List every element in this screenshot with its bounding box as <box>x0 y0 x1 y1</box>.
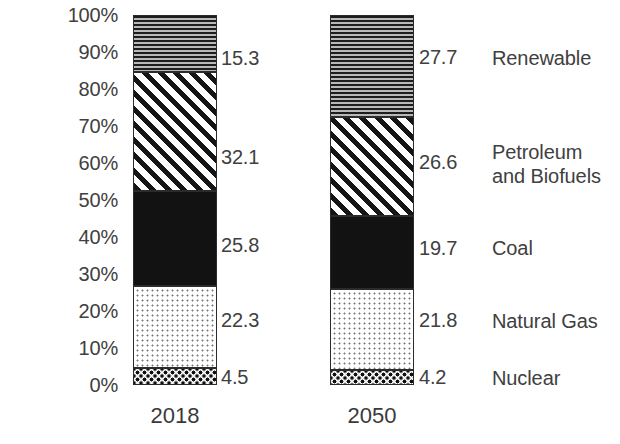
value-label-nuclear-2018: 4.5 <box>221 367 248 387</box>
value-label-coal-2050: 19.7 <box>419 238 457 258</box>
bar-segment-nuclear-2050[interactable] <box>330 370 414 385</box>
bar-segment-nuclear-2018[interactable] <box>133 368 217 385</box>
bar-segment-petroleum-2018[interactable] <box>133 72 217 191</box>
value-label-natural-gas-2050: 21.8 <box>419 310 457 330</box>
value-label-coal-2018: 25.8 <box>221 235 259 255</box>
bar-segment-petroleum-2050[interactable] <box>330 117 414 216</box>
value-label-petroleum-2018: 32.1 <box>221 147 259 167</box>
category-label-2050: 2050 <box>307 404 437 428</box>
value-label-renewable-2050: 27.7 <box>419 47 457 67</box>
bar-segment-coal-2018[interactable] <box>133 191 217 286</box>
bar-segment-coal-2050[interactable] <box>330 216 414 289</box>
bar-segment-natural-gas-2050[interactable] <box>330 289 414 370</box>
legend-item-natural-gas[interactable]: Natural Gas <box>492 309 598 333</box>
stacked-bar-chart: 100% 90% 80% 70% 60% 50% 40% 30% 20% 10%… <box>0 0 620 444</box>
value-label-natural-gas-2018: 22.3 <box>221 310 259 330</box>
value-label-nuclear-2050: 4.2 <box>419 367 446 387</box>
value-label-renewable-2018: 15.3 <box>221 48 259 68</box>
legend-item-petroleum[interactable]: Petroleum and Biofuels <box>492 140 601 188</box>
bar-segment-renewable-2018[interactable] <box>133 15 217 72</box>
bar-segment-renewable-2050[interactable] <box>330 15 414 117</box>
legend-item-renewable[interactable]: Renewable <box>492 46 591 70</box>
legend-item-coal[interactable]: Coal <box>492 236 533 260</box>
category-label-2018: 2018 <box>110 404 240 428</box>
value-label-petroleum-2050: 26.6 <box>419 152 457 172</box>
bar-segment-natural-gas-2018[interactable] <box>133 286 217 368</box>
legend-item-nuclear[interactable]: Nuclear <box>492 366 560 390</box>
